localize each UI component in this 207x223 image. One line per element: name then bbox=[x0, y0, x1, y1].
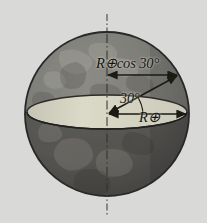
label-angle-text: 30° bbox=[120, 91, 140, 106]
label-angle-30: 30° bbox=[120, 92, 140, 106]
label-r-cos-30: R⊕cos 30° bbox=[96, 56, 159, 71]
scan-noise bbox=[0, 0, 207, 223]
label-r-cos-text: R⊕cos 30° bbox=[96, 55, 159, 71]
figure-canvas bbox=[0, 0, 207, 223]
label-r-equator: R⊕ bbox=[139, 110, 160, 125]
label-r-equator-text: R⊕ bbox=[139, 109, 160, 125]
earth-latitude-figure: R⊕cos 30° 30° R⊕ bbox=[0, 0, 207, 223]
